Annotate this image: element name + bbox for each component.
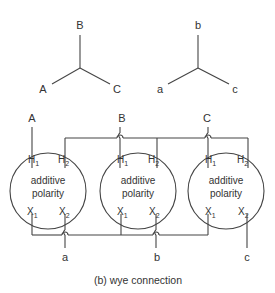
svg-text:H1: H1 bbox=[205, 154, 216, 167]
svg-text:H2: H2 bbox=[237, 154, 248, 167]
svg-text:X1: X1 bbox=[117, 206, 128, 219]
output-label-c: c bbox=[244, 251, 250, 263]
figure-caption: (b) wye connection bbox=[94, 274, 182, 286]
polarity-text-line2: polarity bbox=[210, 188, 242, 199]
output-label-a: a bbox=[62, 251, 69, 263]
wye-secondary-label-c: c bbox=[232, 83, 238, 95]
wye-primary-label-c: C bbox=[113, 83, 121, 95]
polarity-text-line2: polarity bbox=[32, 188, 64, 199]
line-label-b: B bbox=[118, 112, 125, 124]
svg-text:X1: X1 bbox=[205, 206, 216, 219]
secondary-wye-symbol: b a c bbox=[157, 19, 238, 95]
svg-text:X2: X2 bbox=[149, 206, 160, 219]
secondary-wiring bbox=[32, 214, 247, 248]
line-label-c: C bbox=[203, 112, 211, 124]
wye-secondary-label-a: a bbox=[157, 83, 164, 95]
primary-wye-symbol: B A C bbox=[39, 19, 121, 95]
polarity-text-line1: additive bbox=[121, 175, 156, 186]
transformer-3: H1 H2 additive polarity X1 X2 bbox=[188, 153, 264, 229]
output-label-b: b bbox=[154, 251, 160, 263]
svg-text:X2: X2 bbox=[59, 206, 70, 219]
wye-primary-label-a: A bbox=[39, 83, 47, 95]
line-label-a: A bbox=[28, 112, 36, 124]
polarity-text-line1: additive bbox=[31, 175, 66, 186]
transformer-1: H1 H2 additive polarity X1 X2 bbox=[10, 153, 86, 229]
wye-primary-label-b: B bbox=[76, 19, 83, 31]
wye-secondary-label-b: b bbox=[195, 19, 201, 31]
svg-text:H2: H2 bbox=[58, 154, 69, 167]
polarity-text-line1: additive bbox=[209, 175, 244, 186]
transformer-2: H1 H2 additive polarity X1 X2 bbox=[100, 153, 176, 229]
svg-text:H1: H1 bbox=[117, 154, 128, 167]
svg-text:H1: H1 bbox=[28, 154, 39, 167]
polarity-text-line2: polarity bbox=[122, 188, 154, 199]
wye-connection-diagram: B A C b a c A B C bbox=[0, 0, 275, 293]
